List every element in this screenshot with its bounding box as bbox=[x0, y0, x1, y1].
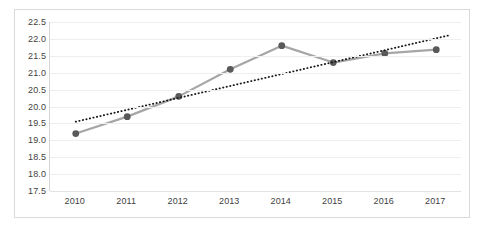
x-axis-tick-label: 2010 bbox=[65, 196, 85, 207]
y-axis-tick-label: 19.0 bbox=[28, 135, 46, 145]
y-axis-tick-label: 20.5 bbox=[28, 85, 46, 95]
chart-container: 17.518.018.519.019.520.020.521.021.522.0… bbox=[14, 9, 470, 218]
y-axis-tick-label: 21.0 bbox=[28, 68, 46, 78]
gridline bbox=[50, 123, 461, 124]
gridline bbox=[50, 22, 461, 23]
data-point-marker bbox=[72, 130, 79, 137]
gridline bbox=[50, 107, 461, 108]
data-point-marker bbox=[433, 46, 440, 53]
data-point-marker bbox=[175, 93, 182, 100]
gridline bbox=[50, 157, 461, 158]
y-axis-tick-label: 19.5 bbox=[28, 118, 46, 128]
x-axis-tick-label: 2013 bbox=[219, 196, 239, 207]
gridline bbox=[50, 90, 461, 91]
chart-plot-wrapper: 17.518.018.519.019.520.020.521.021.522.0… bbox=[15, 10, 471, 219]
data-point-marker bbox=[227, 66, 234, 73]
y-axis-tick-label: 17.5 bbox=[28, 186, 46, 196]
y-axis-tick-label: 22.0 bbox=[28, 34, 46, 44]
y-axis-tick-label: 22.5 bbox=[28, 17, 46, 27]
x-axis-tick-label: 2011 bbox=[116, 196, 136, 207]
x-axis-tick-label: 2014 bbox=[271, 196, 291, 207]
data-point-marker bbox=[330, 59, 337, 66]
gridline bbox=[50, 140, 461, 141]
data-point-marker bbox=[278, 42, 285, 49]
trendline bbox=[76, 36, 449, 122]
y-axis-tick-label: 18.0 bbox=[28, 169, 46, 179]
y-axis-tick-label: 21.5 bbox=[28, 51, 46, 61]
y-axis-tick-label: 20.0 bbox=[28, 102, 46, 112]
plot-area bbox=[49, 22, 461, 191]
x-axis-tick-label: 2017 bbox=[425, 196, 445, 207]
gridline bbox=[50, 73, 461, 74]
y-axis-tick-label: 18.5 bbox=[28, 152, 46, 162]
x-axis-tick-label: 2015 bbox=[322, 196, 342, 207]
x-axis-tick-label: 2012 bbox=[168, 196, 188, 207]
y-axis: 17.518.018.519.019.520.020.521.021.522.0… bbox=[15, 10, 49, 219]
gridline bbox=[50, 39, 461, 40]
gridline bbox=[50, 191, 461, 192]
x-axis-tick-label: 2016 bbox=[374, 196, 394, 207]
data-point-marker bbox=[124, 113, 131, 120]
x-axis: 20102011201220132014201520162017 bbox=[49, 196, 461, 216]
gridline bbox=[50, 174, 461, 175]
gridline bbox=[50, 56, 461, 57]
